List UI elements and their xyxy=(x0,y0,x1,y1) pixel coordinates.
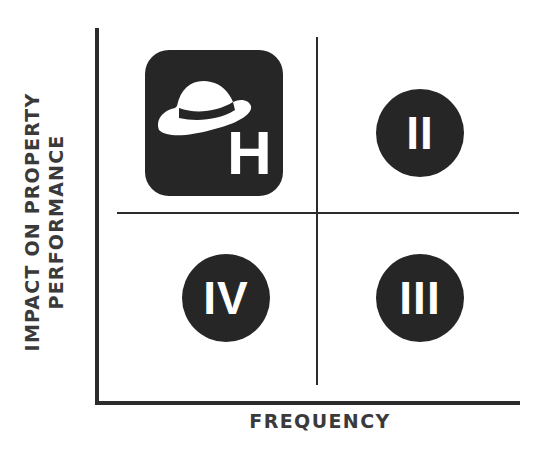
quadrant-top-right-label: II xyxy=(406,106,434,160)
quadrant-top-right-circle: II xyxy=(376,89,464,177)
x-axis-label: FREQUENCY xyxy=(200,410,440,432)
vertical-divider xyxy=(316,37,318,385)
y-axis-label: IMPACT ON PROPERTY PERFORMANCE xyxy=(20,52,80,392)
quadrant-bottom-left-label: IV xyxy=(203,271,248,325)
quadrant-top-left-badge: H xyxy=(145,50,283,196)
y-axis-label-line-2: PERFORMANCE xyxy=(44,52,68,392)
quadrant-bottom-right-circle: III xyxy=(376,254,464,342)
y-axis-label-line-1: IMPACT ON PROPERTY xyxy=(20,52,44,392)
quadrant-top-left-label: H xyxy=(227,122,272,184)
y-axis-line xyxy=(95,28,99,405)
quadrant-bottom-left-circle: IV xyxy=(182,254,270,342)
horizontal-divider xyxy=(117,212,519,214)
quadrant-bottom-right-label: III xyxy=(399,271,440,325)
x-axis-line xyxy=(95,401,520,405)
